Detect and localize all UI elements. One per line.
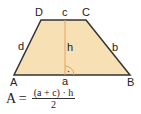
vertex-b-label: B <box>127 77 134 88</box>
side-b-label: b <box>112 42 118 53</box>
formula-denominator: 2 <box>51 99 56 110</box>
right-angle-dot <box>68 71 70 73</box>
formula-numerator: (a + c) · h <box>32 87 76 99</box>
formula-lhs: A = <box>6 91 27 107</box>
height-label: h <box>67 42 73 53</box>
side-c-label: c <box>62 7 68 18</box>
area-formula: A = (a + c) · h 2 <box>6 87 75 110</box>
vertex-d-label: D <box>35 7 43 18</box>
side-a-label: a <box>62 76 68 87</box>
side-d-label: d <box>18 41 24 52</box>
formula-fraction: (a + c) · h 2 <box>32 87 76 110</box>
vertex-c-label: C <box>82 7 90 18</box>
